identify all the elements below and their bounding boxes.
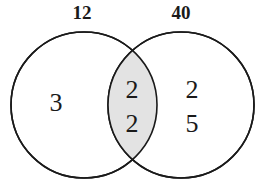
venn-diagram: 12 40 3 2 2 2 5 — [0, 0, 264, 187]
set-label-left: 12 — [73, 2, 92, 23]
region-value: 2 — [126, 75, 139, 104]
region-value: 2 — [186, 75, 199, 104]
region-value: 5 — [186, 109, 199, 138]
venn-canvas: 12 40 3 2 2 2 5 — [0, 0, 264, 187]
region-left-only: 3 — [50, 88, 63, 117]
region-value: 3 — [50, 88, 63, 117]
region-value: 2 — [126, 109, 139, 138]
set-label-right: 40 — [172, 2, 191, 23]
